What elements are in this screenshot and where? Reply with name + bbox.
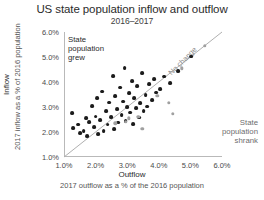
- data-point: [76, 123, 80, 127]
- x-tick-label: 4.0%: [150, 161, 167, 170]
- chart-title: US state population inflow and outflow: [0, 3, 264, 16]
- y-axis-title: Inflow: [2, 74, 11, 95]
- data-point: [106, 123, 110, 127]
- data-point: [140, 71, 144, 75]
- data-point: [111, 74, 115, 78]
- y-tick-label: 2.0%: [42, 128, 59, 137]
- y-tick-label: 4.0%: [42, 78, 59, 87]
- data-point: [92, 125, 96, 129]
- data-point: [142, 109, 146, 113]
- data-point: [128, 111, 132, 115]
- data-point: [94, 115, 98, 119]
- data-point: [131, 122, 135, 126]
- data-point: [144, 93, 148, 97]
- data-point: [125, 105, 129, 109]
- data-point: [112, 127, 116, 131]
- data-point: [96, 132, 100, 136]
- data-point: [90, 104, 94, 108]
- data-point: [158, 87, 162, 91]
- data-point: [102, 129, 106, 133]
- data-point: [132, 96, 136, 100]
- scatter-chart: US state population inflow and outflow 2…: [0, 0, 264, 200]
- data-point: [85, 134, 89, 138]
- data-point: [115, 107, 119, 111]
- data-point: [189, 55, 193, 59]
- data-point: [130, 79, 134, 83]
- data-point: [70, 111, 74, 115]
- data-point: [95, 96, 99, 100]
- y-tick-label: 3.0%: [42, 103, 59, 112]
- data-point: [168, 81, 172, 85]
- data-point: [107, 101, 111, 105]
- data-point: [147, 82, 151, 86]
- data-point: [82, 129, 86, 133]
- data-point: [123, 66, 127, 70]
- x-tick-label: 3.0%: [119, 161, 136, 170]
- data-point: [150, 98, 154, 102]
- data-point: [127, 91, 131, 95]
- data-point: [116, 121, 120, 125]
- x-axis-subtitle: 2017 outflow as a % of the 2016 populati…: [0, 181, 264, 190]
- data-point: [118, 86, 122, 90]
- data-point: [120, 113, 124, 117]
- annotation-population-grew: State population grew: [68, 35, 104, 63]
- x-tick-label: 2.0%: [87, 161, 104, 170]
- y-tick-label: 6.0%: [42, 28, 59, 37]
- data-point: [104, 109, 108, 113]
- data-point: [100, 90, 104, 94]
- y-axis-subtitle: 2017 inflow as a % of 2016 population: [13, 23, 22, 150]
- annotation-population-shrank: State population shrank: [222, 118, 258, 146]
- data-point: [72, 126, 76, 130]
- data-point: [109, 115, 113, 119]
- x-tick-label: 6.0%: [213, 161, 230, 170]
- chart-subtitle: 2016–2017: [0, 16, 264, 26]
- data-point: [113, 94, 117, 98]
- data-point: [122, 100, 126, 104]
- x-tick-label: 1.0%: [55, 161, 72, 170]
- data-point: [87, 120, 91, 124]
- data-point: [134, 106, 138, 110]
- x-axis-title: Outflow: [0, 170, 264, 179]
- x-tick-label: 5.0%: [182, 161, 199, 170]
- y-tick-label: 5.0%: [42, 53, 59, 62]
- data-point: [152, 77, 156, 81]
- data-point: [98, 118, 102, 122]
- data-point: [163, 75, 167, 79]
- data-point: [139, 101, 143, 105]
- data-point: [145, 105, 149, 109]
- data-point: [135, 84, 139, 88]
